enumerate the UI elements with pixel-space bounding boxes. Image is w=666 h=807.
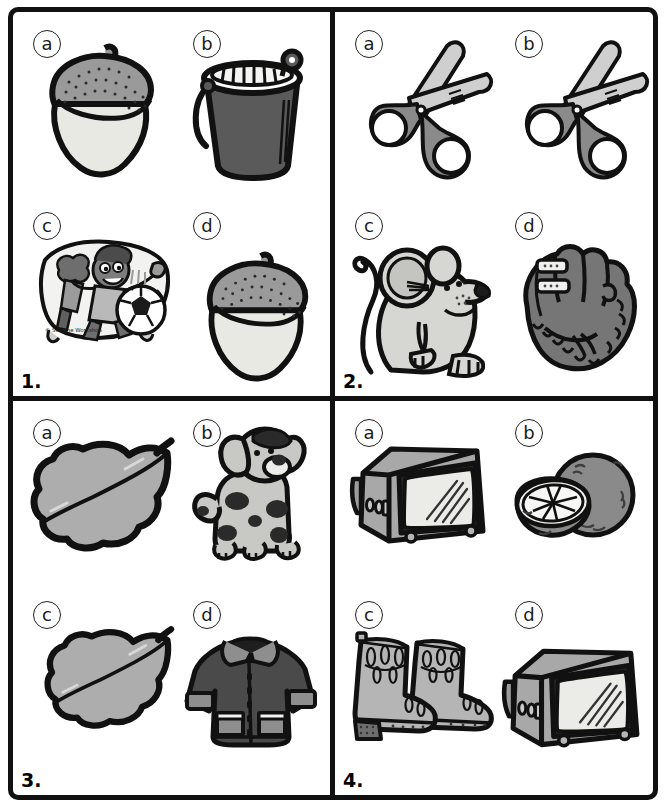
option-label-text: d (523, 217, 534, 235)
television-icon[interactable] (353, 441, 489, 553)
option-label-text: c (42, 606, 52, 624)
acorn-icon[interactable] (33, 42, 163, 182)
question-number-1: 1. (21, 370, 41, 392)
option-label-text: c (364, 606, 374, 624)
question-1-panel: a b c d (13, 12, 330, 396)
option-label-text: b (201, 35, 212, 53)
option-label-2b[interactable]: b (515, 30, 543, 58)
children-playing-soccer-sticker-icon[interactable]: © Sesame Workshop (31, 234, 179, 352)
option-label-text: b (523, 424, 534, 442)
sticker-copyright: © Sesame Workshop (45, 327, 102, 334)
option-label-text: d (201, 606, 212, 624)
question-4-panel: a b c d (335, 401, 653, 795)
winter-coat-icon[interactable] (183, 629, 317, 749)
question-number-3: 3. (21, 769, 41, 791)
option-label-text: a (363, 35, 374, 53)
option-label-4d[interactable]: d (515, 601, 543, 629)
option-label-text: b (201, 424, 212, 442)
option-label-4c[interactable]: c (355, 601, 383, 629)
option-label-3d[interactable]: d (193, 601, 221, 629)
option-label-text: c (364, 217, 374, 235)
option-label-text: a (41, 424, 52, 442)
boots-icon[interactable] (347, 623, 497, 745)
worksheet-page: a b c d (0, 0, 666, 807)
question-number-4: 4. (343, 769, 363, 791)
baseball-glove-icon[interactable] (511, 240, 641, 378)
option-label-text: a (363, 424, 374, 442)
option-label-4b[interactable]: b (515, 419, 543, 447)
option-label-text: d (523, 606, 534, 624)
option-label-text: b (523, 35, 534, 53)
orange-fruit-icon[interactable] (509, 447, 637, 553)
option-label-4a[interactable]: a (355, 419, 383, 447)
option-label-2a[interactable]: a (355, 30, 383, 58)
leaf-icon[interactable] (43, 623, 171, 731)
option-label-text: c (42, 217, 52, 235)
option-label-1c[interactable]: c (33, 212, 61, 240)
option-label-2d[interactable]: d (515, 212, 543, 240)
question-number-2: 2. (343, 370, 363, 392)
leaf-icon[interactable] (29, 435, 171, 553)
question-2-panel: a b c d (335, 12, 653, 396)
option-label-text: d (201, 217, 212, 235)
mouse-icon[interactable] (345, 226, 495, 381)
option-label-1b[interactable]: b (193, 30, 221, 58)
acorn-icon[interactable] (191, 250, 317, 386)
bucket-icon[interactable] (188, 42, 313, 182)
option-label-2c[interactable]: c (355, 212, 383, 240)
question-3-panel: a b c d (13, 401, 330, 795)
option-label-1a[interactable]: a (33, 30, 61, 58)
option-label-text: a (41, 35, 52, 53)
television-icon[interactable] (505, 643, 643, 757)
option-label-3b[interactable]: b (193, 419, 221, 447)
option-label-3a[interactable]: a (33, 419, 61, 447)
option-label-1d[interactable]: d (193, 212, 221, 240)
option-label-3c[interactable]: c (33, 601, 61, 629)
